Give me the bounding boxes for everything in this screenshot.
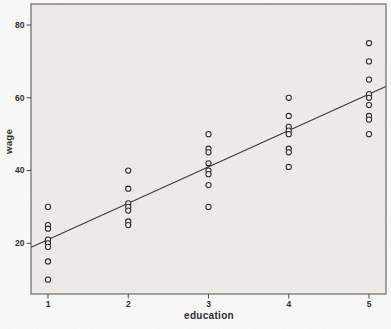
data-point <box>206 182 211 187</box>
data-point <box>45 226 50 231</box>
data-point <box>286 95 291 100</box>
data-point <box>206 204 211 209</box>
data-point <box>286 132 291 137</box>
data-point <box>286 113 291 118</box>
x-tick-label: 1 <box>46 299 51 309</box>
data-point <box>206 161 211 166</box>
data-point <box>286 164 291 169</box>
data-point <box>206 172 211 177</box>
data-point <box>126 168 131 173</box>
y-tick-label: 40 <box>15 165 25 175</box>
data-point <box>366 77 371 82</box>
x-tick-label: 3 <box>206 299 211 309</box>
data-point <box>126 223 131 228</box>
x-tick-label: 2 <box>126 299 131 309</box>
data-point <box>366 102 371 107</box>
data-point <box>366 117 371 122</box>
y-tick-label: 60 <box>15 93 25 103</box>
wage-education-chart: 2040608012345 wage education <box>0 0 391 329</box>
data-point <box>206 132 211 137</box>
data-point <box>45 204 50 209</box>
data-point <box>206 150 211 155</box>
y-tick-label: 80 <box>15 20 25 30</box>
data-point <box>286 150 291 155</box>
data-point <box>45 277 50 282</box>
y-axis-title: wage <box>3 124 14 160</box>
y-tick-label: 20 <box>15 238 25 248</box>
data-point <box>45 259 50 264</box>
x-tick-label: 5 <box>367 299 372 309</box>
data-point <box>366 132 371 137</box>
data-point <box>126 186 131 191</box>
data-point <box>126 208 131 213</box>
data-point <box>366 59 371 64</box>
data-point <box>366 41 371 46</box>
x-axis-title: education <box>159 310 259 321</box>
data-point <box>366 95 371 100</box>
x-tick-label: 4 <box>286 299 291 309</box>
data-point <box>45 244 50 249</box>
scatter-plot: 2040608012345 <box>0 0 391 329</box>
